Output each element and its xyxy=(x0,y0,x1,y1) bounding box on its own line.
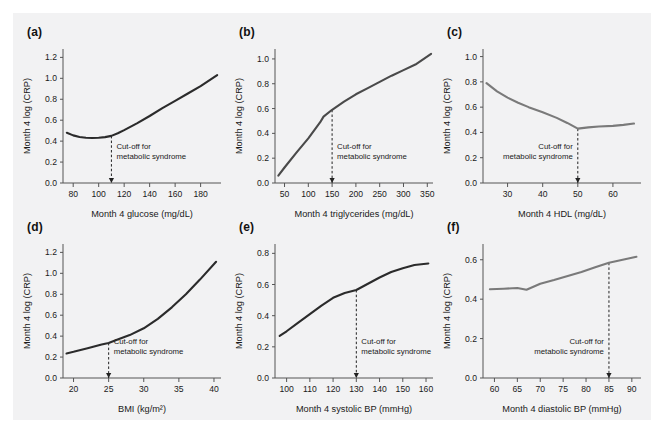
y-axis-label: Month 4 log (CRP) xyxy=(22,78,32,154)
x-tick-label: 120 xyxy=(117,189,132,199)
x-tick-label: 30 xyxy=(139,384,149,394)
subplot-b: (b) 0.00.20.40.60.81.0501001502002503003… xyxy=(229,23,441,223)
subplot-e: (e) 0.00.20.40.60.8100110120130140150160… xyxy=(229,218,441,418)
y-tick-label: 0.0 xyxy=(465,178,477,188)
plot-area-f: 0.00.20.40.660657075808590Cut-off formet… xyxy=(437,236,649,418)
subplot-f: (f) 0.00.20.40.660657075808590Cut-off fo… xyxy=(437,218,649,418)
cutoff-note-line2: metabolic syndrome xyxy=(114,347,184,356)
subplot-a: (a) 0.00.20.40.60.81.01.2801001201401601… xyxy=(17,23,229,223)
x-axis-label: Month 4 diastolic BP (mmHg) xyxy=(502,404,621,414)
y-tick-label: 0.8 xyxy=(257,248,269,258)
cutoff-note-line1: Cut-off for xyxy=(538,142,573,151)
x-tick-label: 30 xyxy=(503,189,513,199)
subplot-label-d: (d) xyxy=(27,220,43,234)
cutoff-note-line1: Cut-off for xyxy=(361,337,396,346)
y-tick-label: 0.0 xyxy=(45,178,57,188)
cutoff-note-line1: Cut-off for xyxy=(569,337,604,346)
y-tick-label: 1.2 xyxy=(45,247,57,257)
y-tick-label: 0.0 xyxy=(45,373,57,383)
chart-svg-d: 0.00.20.40.60.81.01.22025303540Cut-off f… xyxy=(17,236,229,418)
y-axis-label: Month 4 log (CRP) xyxy=(442,273,452,349)
cutoff-arrow-icon xyxy=(106,373,111,378)
data-line xyxy=(280,263,429,335)
cutoff-note-line2: metabolic syndrome xyxy=(503,152,573,161)
figure-panel: (a) 0.00.20.40.60.81.01.2801001201401601… xyxy=(13,13,651,420)
x-tick-label: 150 xyxy=(396,384,411,394)
x-tick-label: 50 xyxy=(573,189,583,199)
y-tick-label: 0.8 xyxy=(465,77,477,87)
subplot-label-f: (f) xyxy=(447,220,460,234)
y-axis-label: Month 4 log (CRP) xyxy=(442,78,452,154)
y-axis-label: Month 4 log (CRP) xyxy=(234,78,244,154)
subplot-label-a: (a) xyxy=(27,25,42,39)
y-tick-label: 0.6 xyxy=(465,102,477,112)
x-tick-label: 300 xyxy=(396,189,411,199)
y-tick-label: 1.0 xyxy=(45,268,57,278)
x-tick-label: 100 xyxy=(279,384,294,394)
x-tick-label: 140 xyxy=(372,384,387,394)
x-tick-label: 75 xyxy=(558,384,568,394)
y-tick-label: 0.4 xyxy=(257,311,269,321)
x-tick-label: 160 xyxy=(419,384,434,394)
y-tick-label: 1.0 xyxy=(257,54,269,64)
chart-svg-a: 0.00.20.40.60.81.01.280100120140160180Cu… xyxy=(17,41,229,223)
y-tick-label: 1.0 xyxy=(465,52,477,62)
cutoff-arrow-icon xyxy=(606,373,611,378)
x-axis-label: Month 4 systolic BP (mmHg) xyxy=(296,404,412,414)
data-line xyxy=(487,83,634,129)
plot-area-c: 0.00.20.40.60.81.030405060Cut-off formet… xyxy=(437,41,649,223)
y-tick-label: 0.0 xyxy=(257,178,269,188)
x-tick-label: 150 xyxy=(325,189,340,199)
x-axis-label: BMI (kg/m²) xyxy=(118,404,166,414)
y-tick-label: 0.4 xyxy=(465,127,477,137)
plot-area-b: 0.00.20.40.60.81.050100150200250300350Cu… xyxy=(229,41,441,223)
y-tick-label: 0.2 xyxy=(257,153,269,163)
cutoff-note-line2: metabolic syndrome xyxy=(361,347,431,356)
cutoff-arrow-icon xyxy=(354,373,359,378)
x-tick-label: 65 xyxy=(513,384,523,394)
y-tick-label: 0.8 xyxy=(45,289,57,299)
y-tick-label: 0.6 xyxy=(45,310,57,320)
x-tick-label: 350 xyxy=(420,189,435,199)
chart-svg-b: 0.00.20.40.60.81.050100150200250300350Cu… xyxy=(229,41,441,223)
y-tick-label: 0.4 xyxy=(465,294,477,304)
y-axis-label: Month 4 log (CRP) xyxy=(22,273,32,349)
x-tick-label: 60 xyxy=(490,384,500,394)
x-tick-label: 85 xyxy=(604,384,614,394)
x-tick-label: 35 xyxy=(174,384,184,394)
x-tick-label: 50 xyxy=(280,189,290,199)
y-tick-label: 0.0 xyxy=(465,373,477,383)
plot-area-d: 0.00.20.40.60.81.01.22025303540Cut-off f… xyxy=(17,236,229,418)
y-tick-label: 0.6 xyxy=(257,104,269,114)
subplot-c: (c) 0.00.20.40.60.81.030405060Cut-off fo… xyxy=(437,23,649,223)
y-tick-label: 0.4 xyxy=(257,128,269,138)
x-tick-label: 90 xyxy=(627,384,637,394)
y-tick-label: 0.6 xyxy=(257,280,269,290)
x-tick-label: 200 xyxy=(349,189,364,199)
y-tick-label: 0.2 xyxy=(45,352,57,362)
x-tick-label: 80 xyxy=(581,384,591,394)
cutoff-arrow-icon xyxy=(575,178,580,183)
subplot-label-e: (e) xyxy=(239,220,254,234)
cutoff-note-line2: metabolic syndrome xyxy=(534,347,604,356)
x-tick-label: 160 xyxy=(168,189,183,199)
subplot-d: (d) 0.00.20.40.60.81.01.22025303540Cut-o… xyxy=(17,218,229,418)
x-tick-label: 60 xyxy=(608,189,618,199)
chart-svg-c: 0.00.20.40.60.81.030405060Cut-off formet… xyxy=(437,41,649,223)
data-line xyxy=(490,257,637,290)
x-tick-label: 180 xyxy=(193,189,208,199)
x-tick-label: 140 xyxy=(142,189,157,199)
data-line xyxy=(67,75,217,138)
x-tick-label: 70 xyxy=(535,384,545,394)
y-tick-label: 0.2 xyxy=(465,153,477,163)
plot-area-e: 0.00.20.40.60.8100110120130140150160Cut-… xyxy=(229,236,441,418)
y-tick-label: 0.8 xyxy=(257,79,269,89)
cutoff-arrow-icon xyxy=(109,178,114,183)
x-tick-label: 100 xyxy=(301,189,316,199)
cutoff-arrow-icon xyxy=(330,178,335,183)
y-tick-label: 0.2 xyxy=(257,342,269,352)
y-tick-label: 0.4 xyxy=(45,331,57,341)
y-tick-label: 0.0 xyxy=(257,373,269,383)
cutoff-note-line2: metabolic syndrome xyxy=(337,152,407,161)
x-tick-label: 110 xyxy=(303,384,317,394)
